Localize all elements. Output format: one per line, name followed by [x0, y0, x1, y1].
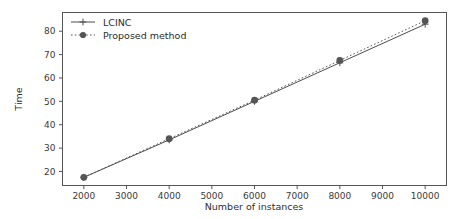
y-tick-label: 30 [44, 143, 56, 153]
data-point-marker [80, 174, 87, 181]
x-axis-title: Number of instances [205, 201, 304, 212]
legend-plus-marker-icon [80, 19, 87, 26]
line-chart: 20304050607080 2000300040005000600070008… [0, 0, 468, 219]
x-tick-label: 5000 [200, 191, 223, 201]
series-layer [80, 17, 428, 180]
x-tick-label: 8000 [328, 191, 351, 201]
y-tick-label: 20 [44, 167, 56, 177]
y-axis-ticks: 20304050607080 [44, 26, 62, 176]
x-tick-label: 10000 [411, 191, 440, 201]
x-tick-label: 2000 [72, 191, 95, 201]
legend-circle-marker-icon [80, 32, 86, 38]
x-tick-label: 6000 [243, 191, 266, 201]
chart-figure: 20304050607080 2000300040005000600070008… [0, 0, 468, 219]
chart-legend: LCINC Proposed method [71, 17, 186, 41]
data-point-marker [336, 57, 343, 64]
y-tick-label: 70 [44, 50, 56, 60]
data-point-marker [166, 135, 173, 142]
x-tick-label: 4000 [158, 191, 181, 201]
y-axis-title: Time [13, 87, 24, 111]
x-tick-label: 3000 [115, 191, 138, 201]
y-tick-label: 50 [44, 97, 56, 107]
y-tick-label: 40 [44, 120, 56, 130]
data-point-marker [422, 17, 429, 24]
legend-label-lcinc: LCINC [103, 17, 132, 28]
x-axis-ticks: 2000300040005000600070008000900010000 [72, 186, 439, 201]
x-tick-label: 9000 [371, 191, 394, 201]
data-point-marker [251, 97, 258, 104]
x-tick-label: 7000 [286, 191, 309, 201]
y-tick-label: 80 [44, 26, 56, 36]
y-tick-label: 60 [44, 73, 56, 83]
legend-label-proposed: Proposed method [103, 30, 186, 41]
